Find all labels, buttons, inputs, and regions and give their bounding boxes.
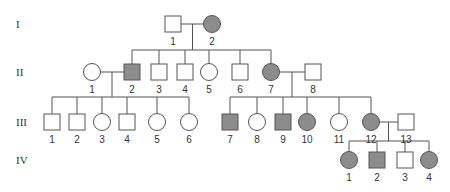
individual-iii-4: 4 — [119, 114, 135, 145]
individual-number: 8 — [254, 134, 260, 145]
individual-number: 2 — [74, 134, 80, 145]
individual-number: 7 — [268, 84, 274, 95]
male-square-icon — [151, 64, 167, 80]
generation-label: III — [16, 116, 27, 128]
female-circle-icon — [84, 64, 101, 81]
individual-ii-2: 2 — [124, 64, 140, 95]
individual-number: 2 — [129, 84, 135, 95]
individual-ii-3: 3 — [151, 64, 167, 95]
male-square-icon — [398, 114, 414, 130]
generation-label: II — [16, 66, 24, 78]
individual-ii-5: 5 — [201, 64, 218, 96]
individual-ii-1: 1 — [84, 64, 101, 96]
female-circle-icon — [181, 114, 198, 131]
affected-female-circle-icon — [263, 64, 280, 81]
male-square-icon — [119, 114, 135, 130]
pedigree-chart: IIIIIIIV1212345678123456789101112131234 — [0, 0, 450, 192]
female-circle-icon — [249, 114, 266, 131]
individual-number: 4 — [124, 134, 130, 145]
individual-number: 10 — [301, 134, 313, 145]
individual-iii-13: 13 — [398, 114, 414, 145]
individual-number: 6 — [237, 84, 243, 95]
individual-number: 2 — [209, 36, 215, 47]
individual-number: 11 — [334, 134, 345, 145]
individual-number: 13 — [400, 134, 412, 145]
individual-number: 4 — [182, 84, 188, 95]
individual-ii-8: 8 — [305, 64, 321, 95]
individual-i-1: 1 — [165, 16, 181, 47]
individual-iv-4: 4 — [421, 152, 438, 184]
individual-ii-6: 6 — [232, 64, 248, 95]
individual-iv-2: 2 — [369, 152, 385, 183]
individual-iii-7: 7 — [222, 114, 238, 145]
male-square-icon — [177, 64, 193, 80]
male-square-icon — [397, 152, 413, 168]
female-circle-icon — [201, 64, 218, 81]
individual-number: 1 — [49, 134, 55, 145]
individual-number: 7 — [227, 134, 233, 145]
individual-iii-10: 10 — [299, 114, 316, 146]
individual-ii-7: 7 — [263, 64, 280, 96]
affected-male-square-icon — [222, 114, 238, 130]
individual-iii-2: 2 — [69, 114, 85, 145]
affected-female-circle-icon — [421, 152, 438, 169]
individual-number: 1 — [170, 36, 176, 47]
individual-iii-3: 3 — [94, 114, 111, 146]
male-square-icon — [69, 114, 85, 130]
pedigree-svg: IIIIIIIV1212345678123456789101112131234 — [0, 0, 450, 192]
individual-number: 9 — [280, 134, 286, 145]
individual-iii-11: 11 — [331, 114, 348, 146]
female-circle-icon — [331, 114, 348, 131]
generation-label: I — [16, 18, 20, 30]
individual-iii-1: 1 — [44, 114, 60, 145]
affected-female-circle-icon — [341, 152, 358, 169]
affected-female-circle-icon — [363, 114, 380, 131]
male-square-icon — [44, 114, 60, 130]
individual-iii-9: 9 — [275, 114, 291, 145]
individual-number: 6 — [186, 134, 192, 145]
individual-iv-3: 3 — [397, 152, 413, 183]
male-square-icon — [305, 64, 321, 80]
affected-male-square-icon — [124, 64, 140, 80]
individual-number: 5 — [206, 84, 212, 95]
individual-iii-12: 12 — [363, 114, 380, 146]
individual-iii-6: 6 — [181, 114, 198, 146]
affected-female-circle-icon — [204, 16, 221, 33]
individual-i-2: 2 — [204, 16, 221, 48]
affected-female-circle-icon — [299, 114, 316, 131]
individual-number: 3 — [156, 84, 162, 95]
individual-iii-8: 8 — [249, 114, 266, 146]
individual-number: 2 — [374, 172, 380, 183]
individual-number: 4 — [426, 172, 432, 183]
individual-number: 3 — [402, 172, 408, 183]
female-circle-icon — [94, 114, 111, 131]
female-circle-icon — [149, 114, 166, 131]
male-square-icon — [232, 64, 248, 80]
individual-ii-4: 4 — [177, 64, 193, 95]
individual-number: 5 — [154, 134, 160, 145]
generation-label: IV — [16, 154, 28, 166]
affected-male-square-icon — [275, 114, 291, 130]
individual-number: 1 — [346, 172, 352, 183]
individual-number: 1 — [89, 84, 95, 95]
individual-iii-5: 5 — [149, 114, 166, 146]
male-square-icon — [165, 16, 181, 32]
individual-iv-1: 1 — [341, 152, 358, 184]
affected-male-square-icon — [369, 152, 385, 168]
individual-number: 3 — [99, 134, 105, 145]
individual-number: 12 — [365, 134, 377, 145]
individual-number: 8 — [310, 84, 316, 95]
